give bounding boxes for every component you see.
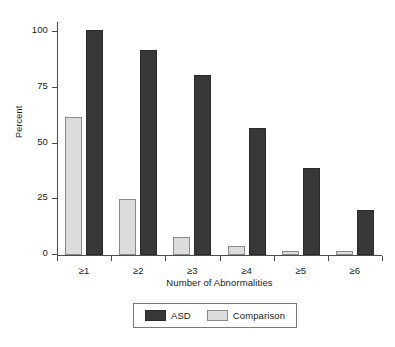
y-axis-title: Percent (8, 46, 24, 116)
bar-asd-ge2 (140, 50, 157, 255)
x-tick-label: ≥5 (274, 265, 328, 276)
y-tick-label: 75 (37, 80, 48, 91)
x-tick (165, 256, 166, 261)
x-tick (111, 256, 112, 261)
x-tick (328, 256, 329, 261)
y-axis-title-text: Percent (14, 68, 24, 138)
bar-comparison-ge2 (119, 199, 136, 255)
bar-comparison-ge1 (65, 117, 82, 255)
bar-chart-figure: Percent 0255075100 ≥1≥2≥3≥4≥5≥6 Number o… (0, 0, 395, 347)
plot-area: 0255075100 ≥1≥2≥3≥4≥5≥6 (57, 22, 382, 256)
legend-entry-asd: ASD (145, 310, 191, 321)
y-tick: 0 (52, 254, 57, 255)
bar-asd-ge1 (86, 30, 103, 255)
y-tick-label: 25 (37, 191, 48, 202)
x-tick (57, 256, 58, 261)
y-tick: 100 (52, 31, 57, 32)
x-tick-label: ≥4 (220, 265, 274, 276)
chart-legend: ASD Comparison (133, 303, 297, 328)
y-tick-label: 0 (43, 247, 48, 258)
x-tick-label: ≥6 (328, 265, 382, 276)
y-tick: 50 (52, 143, 57, 144)
y-tick: 75 (52, 87, 57, 88)
x-tick-label: ≥2 (111, 265, 165, 276)
bar-comparison-ge5 (282, 251, 299, 255)
bar-comparison-ge3 (173, 237, 190, 255)
bar-asd-ge6 (357, 210, 374, 255)
y-tick-label: 50 (37, 136, 48, 147)
x-tick (274, 256, 275, 261)
bar-asd-ge5 (303, 168, 320, 255)
legend-swatch-asd (145, 310, 166, 321)
x-tick (220, 256, 221, 261)
y-tick-label: 100 (32, 24, 48, 35)
bar-comparison-ge6 (336, 251, 353, 255)
x-tick-label: ≥3 (165, 265, 219, 276)
bar-asd-ge3 (194, 75, 211, 256)
legend-swatch-comparison (207, 310, 228, 321)
bar-asd-ge4 (249, 128, 266, 255)
x-axis-title: Number of Abnormalities (57, 277, 382, 288)
legend-entry-comparison: Comparison (207, 310, 285, 321)
bar-comparison-ge4 (228, 246, 245, 255)
x-tick-label: ≥1 (57, 265, 111, 276)
legend-label-asd: ASD (171, 310, 191, 321)
y-axis-line (57, 22, 58, 256)
x-tick (382, 256, 383, 261)
legend-label-comparison: Comparison (233, 310, 285, 321)
y-tick: 25 (52, 198, 57, 199)
